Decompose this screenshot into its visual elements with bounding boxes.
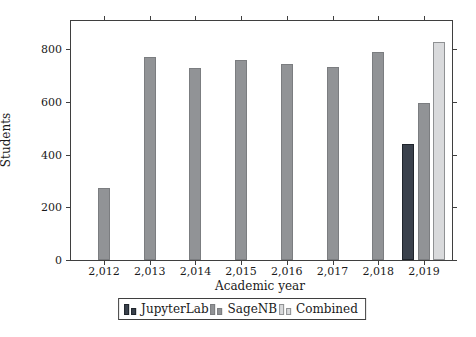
legend-bar-icon	[124, 304, 138, 315]
y-tick-label: 600	[22, 97, 62, 108]
legend-bar-swatch	[211, 304, 216, 315]
plot-area	[70, 20, 453, 261]
y-tick	[66, 207, 70, 208]
x-tick-label: 2,018	[355, 266, 401, 278]
y-tick-right	[453, 260, 457, 261]
y-tick-right	[453, 155, 457, 156]
bar-2018-sagenb	[372, 52, 384, 260]
y-tick	[66, 102, 70, 103]
bar-chart: Academic year Students JupyterLabSageNBC…	[0, 0, 476, 337]
y-tick	[66, 155, 70, 156]
x-tick-top	[378, 16, 379, 20]
x-tick-label: 2,013	[127, 266, 173, 278]
x-tick-label: 2,014	[172, 266, 218, 278]
legend-label: SageNB	[228, 300, 277, 318]
x-tick-top	[287, 16, 288, 20]
legend-bar-icon	[211, 304, 225, 315]
bar-2013-sagenb	[144, 57, 156, 260]
y-tick	[66, 260, 70, 261]
legend-bar-icon	[279, 304, 293, 315]
x-axis-label: Academic year	[170, 279, 350, 293]
x-tick-top	[104, 16, 105, 20]
bar-2019-sagenb	[418, 103, 430, 260]
y-axis-label: Students	[0, 95, 13, 185]
y-tick-label: 200	[22, 202, 62, 213]
bar-2015-sagenb	[235, 60, 247, 260]
y-tick-right	[453, 207, 457, 208]
x-tick-label: 2,016	[264, 266, 310, 278]
x-tick-top	[150, 16, 151, 20]
y-tick-label: 800	[22, 44, 62, 55]
x-tick-label: 2,017	[310, 266, 356, 278]
x-tick-top	[241, 16, 242, 20]
legend-item-jupyterlab: JupyterLab	[124, 300, 208, 318]
x-tick-top	[424, 16, 425, 20]
y-tick-label: 400	[22, 150, 62, 161]
bar-2014-sagenb	[189, 68, 201, 260]
y-tick-right	[453, 49, 457, 50]
y-tick-right	[453, 102, 457, 103]
legend-bar-swatch	[131, 308, 136, 315]
bar-2019-combined	[433, 42, 445, 260]
bar-2019-jupyterlab	[402, 144, 414, 260]
x-tick-label: 2,015	[218, 266, 264, 278]
x-tick-label: 2,012	[81, 266, 127, 278]
legend-bar-swatch	[124, 304, 129, 315]
x-tick-top	[195, 16, 196, 20]
legend-item-combined: Combined	[279, 300, 358, 318]
bar-2012-sagenb	[98, 188, 110, 260]
legend-label: JupyterLab	[141, 300, 208, 318]
legend-item-sagenb: SageNB	[211, 300, 277, 318]
legend: JupyterLabSageNBCombined	[118, 298, 366, 320]
x-tick-label: 2,019	[401, 266, 447, 278]
x-tick-top	[333, 16, 334, 20]
legend-label: Combined	[296, 300, 358, 318]
y-tick	[66, 49, 70, 50]
y-tick-label: 0	[22, 255, 62, 266]
bar-2016-sagenb	[281, 64, 293, 260]
legend-bar-swatch	[279, 304, 284, 315]
legend-bar-swatch	[218, 308, 223, 315]
legend-bar-swatch	[286, 308, 291, 315]
bar-2017-sagenb	[327, 67, 339, 260]
